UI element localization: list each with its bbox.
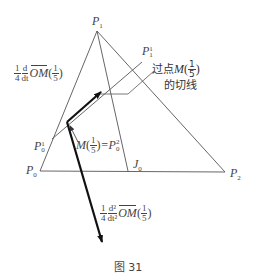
second-derivative-label: 1 4 d² dt² OM ( 1 5 ) bbox=[100, 204, 151, 223]
bezier-triangle-diagram bbox=[0, 0, 256, 276]
label-p1-1-sub: 1 bbox=[149, 52, 153, 58]
sd-paren-close: ) bbox=[147, 206, 151, 221]
label-j0-sub: 0 bbox=[138, 165, 142, 173]
figure-caption: 图 31 bbox=[0, 258, 256, 274]
first-derivative-label: 1 4 d dt OM ( 1 5 ) bbox=[14, 64, 63, 83]
label-p0: P0 bbox=[26, 164, 37, 179]
fd-d-den: dt bbox=[21, 74, 30, 83]
label-p1: P1 bbox=[92, 15, 103, 30]
sd-vector-om: OM bbox=[118, 206, 137, 221]
fd-vector-om: OM bbox=[30, 66, 49, 81]
tangent-label-fraction: 1 5 bbox=[188, 60, 196, 79]
tangent-label-prefix: 过点 bbox=[152, 63, 174, 77]
m-point-label: M ( 1 5 ) =P 2 0 bbox=[76, 136, 119, 155]
label-p1-1: P 1 1 bbox=[142, 45, 153, 59]
first-derivative-arrow bbox=[67, 92, 101, 122]
label-p2-sub: 2 bbox=[237, 174, 241, 182]
m-label-letter: M bbox=[76, 138, 86, 153]
label-p1-1-letter: P bbox=[142, 44, 149, 58]
tangent-line bbox=[52, 62, 142, 139]
label-p0-1: P 1 0 bbox=[34, 140, 45, 154]
label-p0-1-sub: 0 bbox=[41, 147, 45, 153]
m-label-equals-p: =P bbox=[101, 138, 116, 153]
tangent-label-m: M bbox=[174, 62, 184, 77]
tangent-line-label: 过点 M ( 1 5 ) 的切线 bbox=[152, 60, 200, 93]
label-p0-sub: 0 bbox=[33, 171, 37, 179]
fd-derivative: d dt bbox=[21, 64, 30, 83]
tangent-label-row2: 的切线 bbox=[152, 79, 200, 93]
tangent-label-paren-close: ) bbox=[196, 62, 200, 77]
label-p2: P2 bbox=[230, 167, 241, 182]
m-label-indices: 2 0 bbox=[116, 139, 120, 152]
label-p0-1-letter: P bbox=[34, 139, 41, 153]
fd-paren-close: ) bbox=[59, 66, 63, 81]
tangent-label-row1: 过点 M ( 1 5 ) bbox=[152, 60, 200, 79]
sd-d-den: dt² bbox=[107, 214, 119, 223]
tangent-label-frac-den: 5 bbox=[188, 70, 196, 79]
sd-derivative: d² dt² bbox=[107, 204, 119, 223]
m-label-sub: 0 bbox=[116, 146, 120, 152]
label-j0: J0 bbox=[133, 158, 142, 173]
label-p1-sub: 1 bbox=[99, 22, 103, 30]
